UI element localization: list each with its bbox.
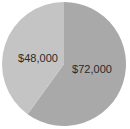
slice-label-48000: $48,000 — [18, 52, 58, 64]
slice-label-72000: $72,000 — [72, 63, 112, 75]
pie-chart: $72,000 $48,000 — [0, 0, 130, 129]
